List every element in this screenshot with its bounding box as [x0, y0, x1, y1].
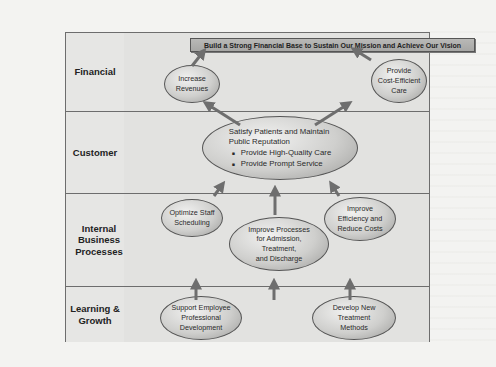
- objective-title: Satisfy Patients and Maintain: [229, 127, 332, 138]
- perspective-label-internal: Internal Business Processes: [66, 194, 133, 286]
- row-customer: Customer Satisfy Patients and Maintain P…: [66, 111, 429, 193]
- bullet-item: Provide High-Quality Care: [241, 148, 332, 159]
- objective-text: Increase: [176, 74, 208, 84]
- objective-text: Provide: [378, 66, 421, 76]
- objective-text: Improve Processes: [248, 225, 310, 235]
- objective-cost-efficient-care: Provide Cost-Efficient Care: [371, 59, 427, 103]
- objective-text: Treatment: [333, 313, 376, 323]
- financial-content: Build a Strong Financial Base to Sustain…: [124, 33, 429, 111]
- objective-text: Development: [171, 323, 230, 333]
- objective-text: Revenues: [176, 84, 208, 94]
- objective-develop-treatment-methods: Develop New Treatment Methods: [312, 296, 396, 340]
- objective-text: Methods: [333, 323, 376, 333]
- objective-text: Cost-Efficient: [378, 76, 421, 86]
- objective-improve-efficiency: Improve Efficiency and Reduce Costs: [324, 197, 396, 241]
- perspective-label-customer: Customer: [66, 112, 125, 193]
- row-financial: Financial Build a Strong Financial Base …: [66, 33, 429, 111]
- objective-text: for Admission,: [248, 234, 310, 244]
- objective-increase-revenues: Increase Revenues: [164, 65, 220, 103]
- objective-text: Professional: [171, 313, 230, 323]
- internal-content: Optimize Staff Scheduling Improve Proces…: [124, 194, 429, 286]
- objective-text: Improve: [337, 204, 382, 214]
- objective-text: Care: [378, 86, 421, 96]
- financial-goal-box: Build a Strong Financial Base to Sustain…: [190, 38, 475, 52]
- row-internal-business-processes: Internal Business Processes Optimize Sta…: [66, 193, 429, 286]
- objective-support-employee-development: Support Employee Professional Developmen…: [160, 296, 242, 340]
- objective-title: Public Reputation: [229, 137, 332, 148]
- objective-text: Scheduling: [169, 218, 214, 228]
- objective-optimize-staff-scheduling: Optimize Staff Scheduling: [161, 199, 223, 237]
- strategy-map: Financial Build a Strong Financial Base …: [65, 32, 430, 342]
- objective-text: Efficiency and: [337, 214, 382, 224]
- learning-content: Support Employee Professional Developmen…: [124, 287, 429, 342]
- objective-text: and Discharge: [248, 254, 310, 264]
- objective-text: Treatment,: [248, 244, 310, 254]
- objective-text: Optimize Staff: [169, 208, 214, 218]
- perspective-label-financial: Financial: [66, 33, 125, 111]
- perspective-label-learning: Learning & Growth: [66, 287, 125, 342]
- objective-text: Reduce Costs: [337, 224, 382, 234]
- row-learning-growth: Learning & Growth Support Employee Profe…: [66, 286, 429, 342]
- objective-satisfy-patients: Satisfy Patients and Maintain Public Rep…: [202, 116, 358, 180]
- objective-text: Support Employee: [171, 303, 230, 313]
- background-bleed-text: [426, 22, 496, 342]
- customer-content: Satisfy Patients and Maintain Public Rep…: [124, 112, 429, 193]
- objective-improve-processes: Improve Processes for Admission, Treatme…: [229, 217, 329, 271]
- objective-text: Develop New: [333, 303, 376, 313]
- bullet-item: Provide Prompt Service: [241, 159, 332, 170]
- objective-bullets: Provide High-Quality Care Provide Prompt…: [229, 148, 332, 169]
